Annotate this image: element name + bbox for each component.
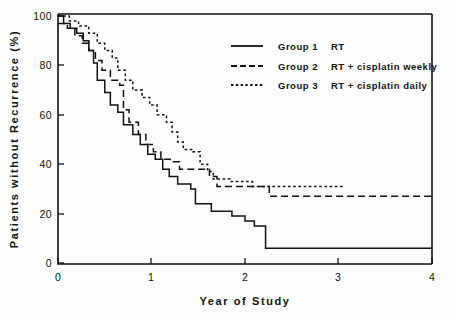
x-axis-tick-labels: 0 1 2 3 4	[55, 271, 435, 283]
legend-group-label: Group 1	[278, 41, 318, 52]
legend-group-label: Group 3	[278, 80, 318, 91]
y-tick-label: 80	[40, 59, 52, 71]
figure-container: 100 80 60 40 20 0 0 1 2 3 4 Year of Stud…	[0, 0, 453, 318]
y-axis-tick-labels: 100 80 60 40 20 0	[33, 10, 52, 269]
x-axis-ticks	[58, 258, 432, 264]
series-line-group-1	[58, 16, 432, 248]
y-tick-label: 60	[40, 109, 52, 121]
x-tick-label: 0	[55, 271, 61, 283]
y-tick-label: 100	[33, 10, 52, 22]
x-tick-label: 3	[335, 271, 341, 283]
y-tick-label: 20	[40, 208, 52, 220]
series-line-group-2	[58, 23, 432, 196]
x-tick-label: 4	[429, 271, 435, 283]
y-tick-label: 40	[40, 158, 52, 170]
legend-group-label: Group 2	[278, 61, 318, 72]
y-axis-title: Patients without Recurrence (%)	[8, 30, 20, 248]
y-tick-label: 0	[46, 257, 52, 269]
x-tick-label: 2	[242, 271, 248, 283]
x-axis-title: Year of Study	[199, 295, 290, 307]
legend: Group 1 RT Group 2 RT + cisplatin weekly…	[231, 41, 438, 91]
legend-treatment-label: RT	[331, 41, 345, 52]
x-tick-label: 1	[148, 271, 154, 283]
legend-treatment-label: RT + cisplatin weekly	[331, 61, 438, 72]
axes-frame	[58, 14, 432, 264]
legend-treatment-label: RT + cisplatin daily	[331, 80, 428, 91]
y-axis-ticks	[58, 16, 64, 263]
kaplan-meier-chart: 100 80 60 40 20 0 0 1 2 3 4 Year of Stud…	[0, 0, 453, 318]
data-series-group	[58, 16, 432, 248]
